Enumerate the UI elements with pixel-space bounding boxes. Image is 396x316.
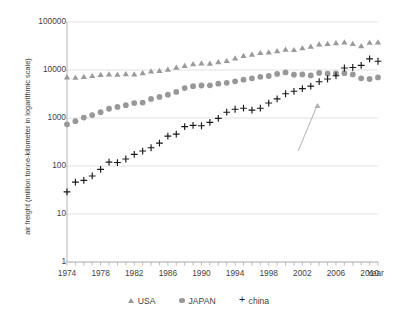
x-axis-tick-label: 1986: [153, 268, 183, 278]
data-point: [64, 121, 70, 127]
data-point: [140, 100, 146, 106]
data-point: [375, 75, 381, 81]
x-axis-tick-label: 1990: [186, 268, 216, 278]
data-point: [249, 75, 255, 81]
data-point: [283, 70, 289, 76]
x-axis-tick-label: 1974: [52, 268, 82, 278]
data-point: [148, 96, 154, 102]
legend-label: JAPAN: [189, 296, 216, 306]
data-point: [123, 102, 129, 108]
x-axis-tick-label: 1978: [86, 268, 116, 278]
data-point: [165, 92, 171, 98]
data-point: [207, 82, 213, 88]
data-point: [73, 118, 79, 124]
x-axis-title: Year: [367, 268, 384, 278]
legend-label: china: [249, 296, 270, 306]
chart-container: air freight (million tonne-kilometer in …: [0, 0, 396, 316]
data-point: [224, 80, 230, 86]
data-point: [199, 83, 205, 89]
data-point: [274, 71, 280, 77]
data-point: [241, 77, 247, 83]
legend-label: USA: [138, 296, 156, 306]
legend-item-japan[interactable]: JAPAN: [178, 295, 216, 306]
x-axis-tick-label: 2002: [287, 268, 317, 278]
data-point: [81, 115, 87, 121]
triangle-marker-icon: [127, 295, 136, 305]
data-point: [157, 94, 163, 100]
data-point: [350, 71, 356, 77]
x-axis-tick-label: 2006: [321, 268, 351, 278]
x-axis-tick-label: 1982: [119, 268, 149, 278]
data-point: [316, 70, 322, 76]
data-point: [257, 74, 263, 80]
chart-legend: USAJAPAN+china: [0, 295, 396, 306]
data-point: [115, 104, 121, 110]
data-point: [131, 100, 137, 106]
x-axis-tick-label: 1994: [220, 268, 250, 278]
data-point: [98, 109, 104, 115]
legend-item-usa[interactable]: USA: [127, 295, 156, 306]
data-point: [266, 73, 272, 79]
circle-marker-icon: [178, 295, 187, 305]
plus-marker-icon: +: [238, 295, 247, 305]
data-point: [190, 83, 196, 89]
data-point: [358, 75, 364, 81]
data-point: [182, 85, 188, 91]
data-point: [232, 78, 238, 84]
data-point: [299, 71, 305, 77]
data-point: [89, 112, 95, 118]
x-axis-tick-label: 1998: [254, 268, 284, 278]
data-point: [308, 73, 314, 79]
data-point: [291, 72, 297, 78]
legend-item-china[interactable]: +china: [238, 295, 270, 306]
plot-background: [67, 22, 378, 262]
data-point: [106, 106, 112, 112]
data-point: [367, 76, 373, 82]
data-point: [173, 89, 179, 95]
data-point: [215, 81, 221, 87]
